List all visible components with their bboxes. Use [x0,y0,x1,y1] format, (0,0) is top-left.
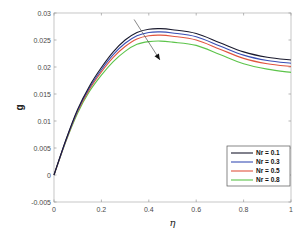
legend: Nr = 0.1Nr = 0.3Nr = 0.5Nr = 0.8 [227,146,290,186]
legend-label: Nr = 0.5 [256,167,280,174]
x-tick-label: 1 [289,206,293,213]
annotation-layer [134,19,160,60]
x-axis-label: η [170,217,176,228]
legend-label: Nr = 0.3 [256,158,280,165]
y-tick-label: 0.015 [33,91,51,98]
x-tick-label: 0.4 [144,206,154,213]
y-tick-label: 0.02 [37,64,51,71]
y-tick-label: 0.03 [37,10,51,17]
chart: -0.00500.0050.010.0150.020.0250.03 00.20… [0,0,307,237]
y-tick-label: 0.025 [33,37,51,44]
legend-label: Nr = 0.1 [256,149,280,156]
x-tick-label: 0.6 [191,206,201,213]
x-tick-label: 0.2 [97,206,107,213]
x-tick-label: 0.8 [239,206,249,213]
y-tick-label: 0.01 [37,118,51,125]
trend-arrow-head [155,54,160,60]
y-axis-label: g [14,104,25,110]
x-tick-label: 0 [52,206,56,213]
y-tick-label: 0.005 [33,145,51,152]
legend-label: Nr = 0.8 [256,176,280,183]
y-tick-label: -0.005 [31,199,51,206]
trend-arrow-line [134,19,160,60]
y-tick-label: 0 [47,172,51,179]
